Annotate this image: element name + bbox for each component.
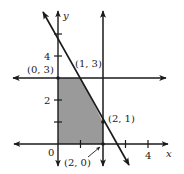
feasible-region (58, 78, 103, 144)
vertex-2-0 (101, 142, 105, 146)
pointer-2-0 (88, 147, 100, 157)
x-tick-label-4: 4 (145, 150, 151, 161)
vertex-label-1-3: (1, 3) (75, 58, 102, 69)
vertex-0-3 (56, 76, 60, 80)
y-axis-label: y (62, 10, 69, 21)
y-tick-label-4: 4 (44, 51, 50, 62)
vertex-label-2-0: (2, 0) (64, 157, 91, 168)
x-axis-label: x (166, 148, 172, 159)
vertex-label-0-3: (0, 3) (27, 64, 54, 75)
vertex-label-2-1: (2, 1) (108, 113, 135, 124)
vertex-2-1 (101, 120, 105, 124)
graph-canvas: y x 4 2 0 4 (0, 3) (1, 3) (2, 1) (2, 0) (0, 0, 184, 174)
origin-label: 0 (48, 147, 54, 158)
y-tick-label-2: 2 (44, 95, 50, 106)
